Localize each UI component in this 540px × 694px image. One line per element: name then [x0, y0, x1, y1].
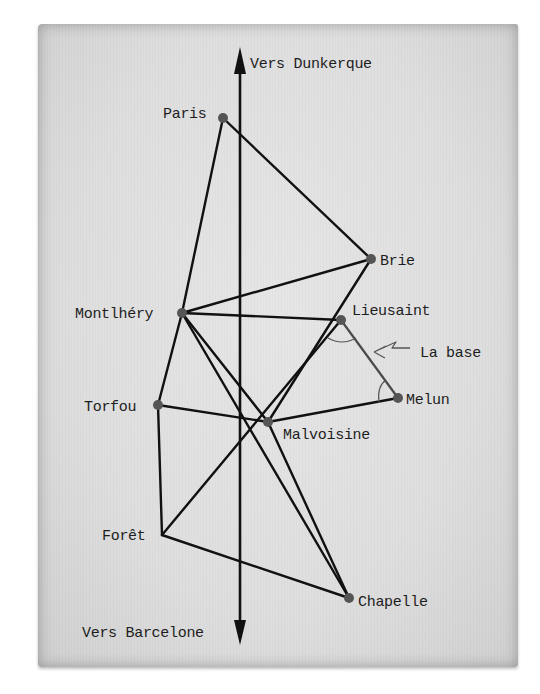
base-line [341, 320, 398, 398]
station-nodes [153, 113, 403, 603]
edge-montlhery-malvoisine [182, 313, 268, 422]
edge-malvoisine-chapelle [268, 422, 349, 598]
axis-bottom-label: Vers Barcelone [82, 625, 204, 642]
triangulation-diagram: La base Vers Dunkerque Vers Barcelone Pa… [0, 0, 540, 694]
node-malvoisine [263, 417, 273, 427]
label-malvoisine: Malvoisine [283, 427, 370, 444]
node-melun [393, 393, 403, 403]
edge-paris-montlhery [182, 118, 223, 313]
label-foret: Forêt [102, 528, 146, 545]
label-brie: Brie [380, 253, 415, 270]
edge-montlhery-chapelle [182, 313, 349, 598]
node-torfou [153, 400, 163, 410]
label-montlhery: Montlhéry [75, 306, 154, 323]
triangle-edges [158, 118, 398, 598]
node-lieusaint [336, 315, 346, 325]
edge-foret-chapelle [162, 535, 349, 598]
base-label: La base [420, 345, 481, 362]
angle-arc-melun [379, 380, 386, 402]
zigzag-arrow-icon [374, 342, 410, 358]
node-chapelle [344, 593, 354, 603]
label-melun: Melun [406, 392, 450, 409]
axis-top-label: Vers Dunkerque [250, 56, 372, 73]
angle-arc-lieusaint [328, 338, 356, 342]
label-chapelle: Chapelle [358, 594, 428, 611]
arrow-up-icon [234, 47, 246, 74]
node-paris [218, 113, 228, 123]
edge-torfou-malvoisine [158, 405, 268, 422]
node-montlhery [177, 308, 187, 318]
edge-montlhery-torfou [158, 313, 182, 405]
label-paris: Paris [163, 106, 207, 123]
label-lieusaint: Lieusaint [352, 303, 430, 320]
edge-montlhery-lieusaint [182, 313, 341, 320]
edge-paris-brie [223, 118, 371, 259]
label-torfou: Torfou [84, 399, 136, 416]
edge-torfou-foret [158, 405, 162, 535]
node-brie [366, 254, 376, 264]
base-line-group: La base [328, 320, 481, 402]
arrow-down-icon [234, 620, 246, 645]
